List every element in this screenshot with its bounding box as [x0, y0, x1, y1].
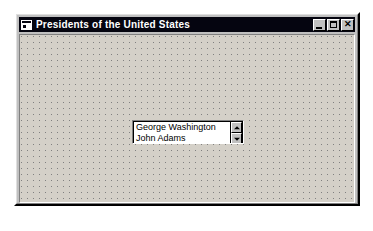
- vb-form-icon[interactable]: [21, 20, 32, 30]
- form-icon-titlebar: [22, 21, 31, 23]
- close-icon: ✕: [342, 19, 353, 29]
- scroll-up-button[interactable]: [231, 122, 242, 133]
- title-bar[interactable]: Presidents of the United States ✕: [19, 17, 355, 32]
- window-title: Presidents of the United States: [36, 19, 313, 30]
- scroll-down-button[interactable]: [231, 133, 242, 144]
- scroll-down-icon: [234, 137, 240, 140]
- application-window: Presidents of the United States ✕: [14, 12, 360, 206]
- list-item[interactable]: George Washington: [134, 122, 230, 133]
- form-design-surface[interactable]: George Washington John Adams: [19, 34, 355, 203]
- listbox-items[interactable]: George Washington John Adams: [134, 122, 230, 144]
- maximize-button[interactable]: [327, 19, 340, 31]
- listbox-inner-frame: George Washington John Adams: [133, 121, 243, 144]
- list-item[interactable]: John Adams: [134, 133, 230, 144]
- presidents-listbox[interactable]: George Washington John Adams: [132, 120, 244, 144]
- window-controls: ✕: [313, 19, 354, 31]
- screenshot-canvas: Presidents of the United States ✕: [0, 0, 373, 231]
- form-icon-control: [23, 25, 26, 28]
- scroll-up-icon: [234, 126, 240, 129]
- minimize-icon: [316, 27, 322, 29]
- listbox-vertical-scrollbar[interactable]: [230, 122, 242, 144]
- maximize-icon: [330, 21, 337, 28]
- window-inner-frame: Presidents of the United States ✕: [16, 14, 358, 204]
- close-button[interactable]: ✕: [341, 19, 354, 31]
- minimize-button[interactable]: [313, 19, 326, 31]
